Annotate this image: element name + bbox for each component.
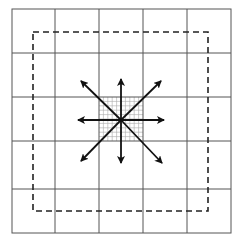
- grid-diagram: [0, 0, 241, 241]
- arrow-up-left-icon: [81, 81, 121, 120]
- arrow-up-right-icon: [121, 81, 161, 120]
- arrows: [78, 79, 164, 163]
